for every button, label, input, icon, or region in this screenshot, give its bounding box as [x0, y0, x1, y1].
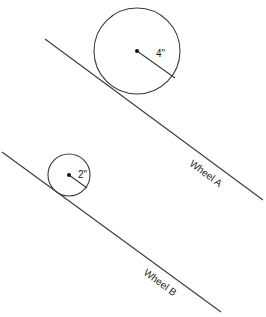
wheel-b-center-dot: [67, 173, 71, 177]
wheel-b-label: Wheel B: [142, 267, 179, 298]
wheel-b-group: 2" Wheel B: [2, 152, 221, 312]
wheel-a-center-dot: [135, 49, 139, 53]
incline-b-line: [2, 152, 221, 312]
wheel-a-label: Wheel A: [188, 158, 225, 189]
wheel-a-radius-label: 4": [156, 48, 166, 59]
wheels-diagram: 4" Wheel A 2" Wheel B: [0, 0, 266, 317]
wheel-b-radius-label: 2": [78, 169, 88, 180]
